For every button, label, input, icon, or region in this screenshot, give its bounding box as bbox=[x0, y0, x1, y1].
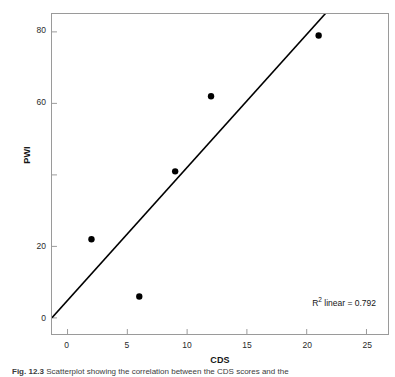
figure-caption: Fig. 12.3 Scatterplot showing the correl… bbox=[12, 367, 392, 377]
x-axis-title: CDS bbox=[51, 355, 389, 365]
scatter-plot-figure: PWI 8060200 0510152025 R2 linear = 0.792… bbox=[0, 0, 395, 377]
x-tick-label: 5 bbox=[112, 341, 142, 350]
data-point bbox=[315, 32, 321, 38]
regression-line bbox=[52, 14, 327, 318]
plot-area: R2 linear = 0.792 bbox=[51, 13, 389, 335]
plot-canvas bbox=[52, 14, 388, 334]
data-point bbox=[172, 168, 178, 174]
x-tick-label: 10 bbox=[172, 341, 202, 350]
figure-caption-text: Scatterplot showing the correlation betw… bbox=[46, 367, 288, 376]
r-squared-annotation: R2 linear = 0.792 bbox=[312, 298, 376, 308]
data-point bbox=[208, 93, 214, 99]
r2-value-text: linear = 0.792 bbox=[322, 298, 376, 308]
regression-line-segment bbox=[52, 14, 327, 318]
y-tick-label: 80 bbox=[16, 26, 46, 35]
figure-caption-label: Fig. 12.3 bbox=[12, 367, 44, 376]
data-point bbox=[136, 293, 142, 299]
tick-marks bbox=[52, 32, 366, 334]
x-tick-label: 20 bbox=[292, 341, 322, 350]
x-tick-label: 0 bbox=[52, 341, 82, 350]
y-tick-label: 60 bbox=[16, 98, 46, 107]
y-axis-title: PWI bbox=[22, 125, 32, 185]
data-points bbox=[88, 32, 322, 299]
y-tick-label: 0 bbox=[16, 314, 46, 323]
x-tick-label: 15 bbox=[232, 341, 262, 350]
x-tick-label: 25 bbox=[352, 341, 382, 350]
y-tick-label: 20 bbox=[16, 242, 46, 251]
data-point bbox=[88, 236, 94, 242]
